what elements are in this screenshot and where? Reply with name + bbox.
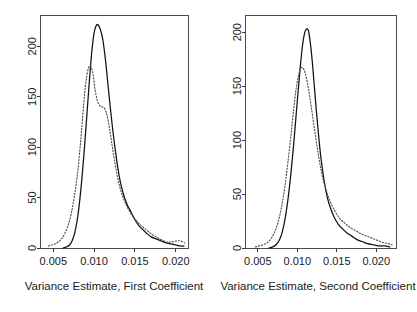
x-tick-label: 0.010 bbox=[80, 255, 108, 267]
x-tick-label: 0.015 bbox=[121, 255, 149, 267]
plot-area-first-coefficient: 0.0050.0100.0150.020 050100150200 Varian… bbox=[0, 0, 208, 312]
x-axis-caption-first: Variance Estimate, First Coefficient bbox=[25, 280, 204, 292]
panel-first-coefficient: 0.0050.0100.0150.020 050100150200 Varian… bbox=[0, 0, 208, 312]
y-axis-labels-first: 050100150200 bbox=[26, 37, 38, 251]
x-tick-label: 0.010 bbox=[284, 255, 312, 267]
y-tick-label: 50 bbox=[26, 191, 38, 203]
x-tick-label: 0.020 bbox=[362, 255, 390, 267]
y-tick-label: 0 bbox=[231, 245, 243, 251]
x-axis-labels-first: 0.0050.0100.0150.020 bbox=[39, 255, 189, 267]
density-curve-solid-second bbox=[269, 29, 390, 248]
y-tick-label: 0 bbox=[26, 245, 38, 251]
density-curve-dotted-second bbox=[255, 67, 392, 247]
y-axis-labels-second: 050100150200 bbox=[231, 23, 243, 251]
y-tick-label: 100 bbox=[26, 138, 38, 156]
panel-second-coefficient: 0.0050.0100.0150.020 050100150200 Varian… bbox=[208, 0, 416, 312]
y-tick-label: 200 bbox=[26, 37, 38, 55]
x-axis-labels-second: 0.0050.0100.0150.020 bbox=[244, 255, 390, 267]
y-tick-label: 100 bbox=[231, 131, 243, 149]
x-tick-label: 0.015 bbox=[323, 255, 351, 267]
y-tick-label: 50 bbox=[231, 188, 243, 200]
y-tick-label: 150 bbox=[231, 77, 243, 95]
x-tick-label: 0.020 bbox=[162, 255, 190, 267]
x-axis-caption-second: Variance Estimate, Second Coefficient bbox=[220, 280, 416, 292]
axes-first bbox=[41, 16, 189, 249]
y-tick-label: 150 bbox=[26, 88, 38, 106]
figure-density-comparison: 0.0050.0100.0150.020 050100150200 Varian… bbox=[0, 0, 417, 312]
plot-area-second-coefficient: 0.0050.0100.0150.020 050100150200 Varian… bbox=[208, 0, 416, 312]
plot-frame bbox=[41, 16, 189, 249]
plot-frame bbox=[246, 16, 397, 249]
x-tick-label: 0.005 bbox=[39, 255, 67, 267]
axes-second bbox=[246, 16, 397, 249]
y-tick-label: 200 bbox=[231, 23, 243, 41]
x-tick-label: 0.005 bbox=[244, 255, 272, 267]
